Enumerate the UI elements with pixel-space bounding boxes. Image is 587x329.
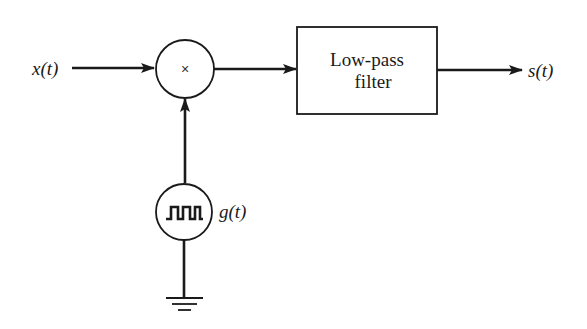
filter-label-line1: Low-pass xyxy=(330,49,404,70)
ground-icon xyxy=(166,298,203,310)
square-wave-icon xyxy=(166,207,203,219)
multiplier-symbol: × xyxy=(181,61,189,77)
generator-label: g(t) xyxy=(219,201,246,223)
filter-label-line2: filter xyxy=(355,71,393,92)
low-pass-filter-block: Low-pass filter xyxy=(297,27,437,114)
block-diagram: x(t) × Low-pass filter s(t) g(t) xyxy=(0,0,587,329)
output-label: s(t) xyxy=(528,60,553,82)
pulse-generator xyxy=(156,184,212,240)
multiplier: × xyxy=(156,40,214,98)
input-label: x(t) xyxy=(31,58,58,80)
